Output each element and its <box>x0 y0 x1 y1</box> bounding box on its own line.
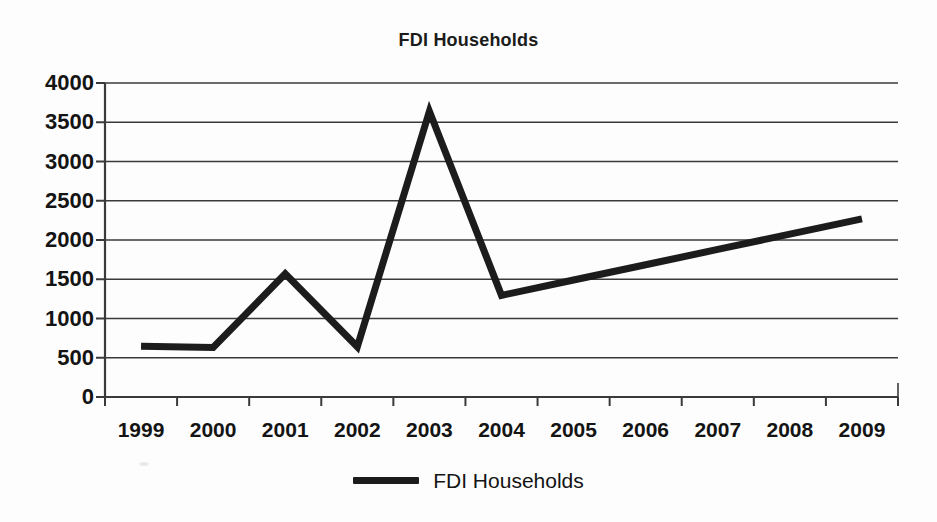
x-axis-tick-label: 2001 <box>262 419 309 440</box>
x-axis-tick-label: 2003 <box>406 419 453 440</box>
chart-legend: FDI Households <box>0 470 937 491</box>
scan-artifact-speck <box>139 462 149 466</box>
x-axis-tick-labels: 1999200020012002200320042005200620072008… <box>0 0 937 522</box>
x-axis-tick-label: 2007 <box>694 419 741 440</box>
x-axis-tick-label: 2008 <box>767 419 814 440</box>
x-axis-tick-label: 2006 <box>622 419 669 440</box>
x-axis-tick-label: 2002 <box>334 419 381 440</box>
legend-line-swatch <box>353 477 419 484</box>
x-axis-tick-label: 2005 <box>550 419 597 440</box>
chart-figure: FDI Households 0500100015002000250030003… <box>0 0 937 522</box>
x-axis-tick-label: 2000 <box>190 419 237 440</box>
x-axis-tick-label: 2009 <box>839 419 886 440</box>
legend-entry-label: FDI Households <box>433 470 584 491</box>
x-axis-tick-label: 2004 <box>478 419 525 440</box>
x-axis-tick-label: 1999 <box>118 419 165 440</box>
